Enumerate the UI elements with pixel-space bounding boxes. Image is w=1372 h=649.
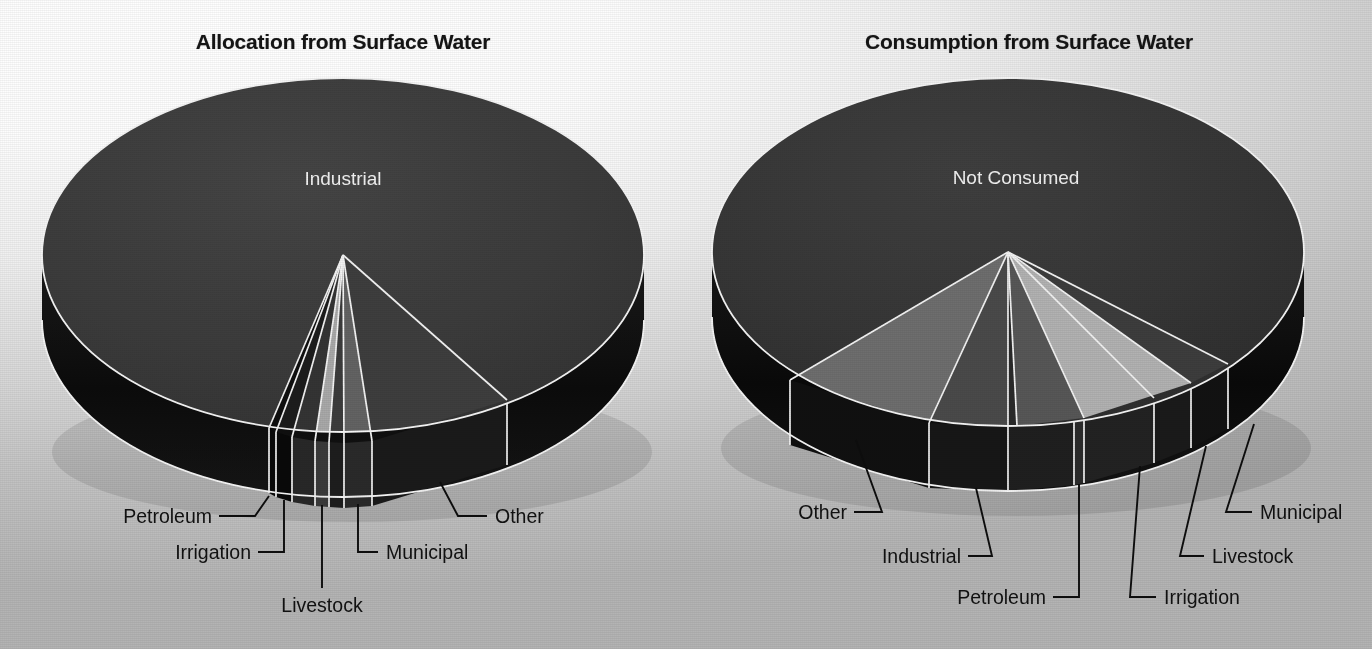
left-wall-municipal: [344, 441, 372, 508]
figure-canvas: Allocation from Surface Water: [0, 0, 1372, 649]
right-disc-top: [712, 78, 1304, 426]
right-callout-industrial: Industrial: [882, 545, 961, 567]
left-wall-gap: [276, 432, 292, 502]
right-callout-municipal: Municipal: [1260, 501, 1342, 523]
right-callout-petroleum: Petroleum: [957, 586, 1046, 608]
right-callout-irrigation: Irrigation: [1164, 586, 1240, 608]
left-callout-livestock: Livestock: [281, 594, 363, 616]
left-callout-municipal: Municipal: [386, 541, 468, 563]
left-inside-label: Industrial: [304, 168, 381, 189]
right-inside-label: Not Consumed: [953, 167, 1080, 188]
right-wall-irrigation: [1074, 418, 1084, 485]
right-wall-petroleum: [1008, 420, 1074, 491]
left-wall-gap2: [329, 442, 344, 508]
right-wall-industrial: [929, 423, 1008, 491]
right-callout-livestock: Livestock: [1212, 545, 1294, 567]
left-callout-irrigation: Irrigation: [175, 541, 251, 563]
left-pie-chart: Industrial Petroleum Irrigation Livestoc…: [0, 0, 686, 649]
panel-allocation: Allocation from Surface Water: [0, 0, 686, 649]
left-callout-petroleum: Petroleum: [123, 505, 212, 527]
right-callout-other: Other: [798, 501, 847, 523]
left-callout-other: Other: [495, 505, 544, 527]
left-wall-petroleum: [269, 428, 276, 497]
panel-consumption: Consumption from Surface Water: [686, 0, 1372, 649]
right-pie-chart: Not Consumed Other Industrial Petroleum …: [686, 0, 1372, 649]
